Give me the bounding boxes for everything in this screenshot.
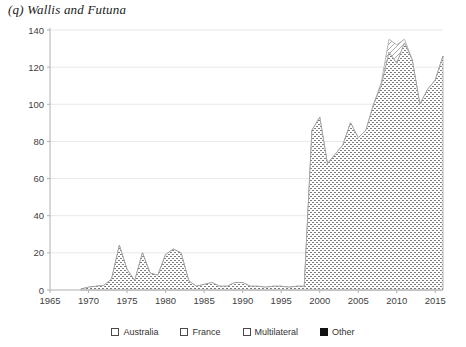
x-tick-label: 2005 [348, 295, 369, 306]
legend-label-france: France [192, 328, 220, 337]
y-tick-label: 40 [33, 210, 44, 221]
x-tick-label: 2000 [309, 295, 330, 306]
y-tick-label: 0 [39, 285, 44, 296]
y-tick-label: 20 [33, 247, 44, 258]
chart-figure: (q) Wallis and Futuna [0, 0, 466, 347]
legend-item-france[interactable]: France [180, 328, 220, 337]
x-tick-label: 1975 [116, 295, 137, 306]
legend-item-other[interactable]: Other [320, 328, 355, 337]
y-tick-label: 80 [33, 136, 44, 147]
y-tick-label: 60 [33, 173, 44, 184]
legend-item-multilateral[interactable]: Multilateral [243, 328, 299, 337]
y-tick-label: 100 [28, 99, 44, 110]
x-tick-label: 1985 [194, 295, 215, 306]
plot-svg: 0204060801001201401965197019751980198519… [0, 18, 466, 308]
chart-title: (q) Wallis and Futuna [8, 2, 126, 18]
x-tick-label: 1990 [232, 295, 253, 306]
y-tick-label: 140 [28, 25, 44, 36]
legend-label-other: Other [332, 328, 355, 337]
x-tick-label: 1965 [39, 295, 60, 306]
x-tick-label: 1995 [271, 295, 292, 306]
x-tick-label: 1980 [155, 295, 176, 306]
y-tick-label: 120 [28, 62, 44, 73]
x-tick-label: 2010 [386, 295, 407, 306]
legend-label-multilateral: Multilateral [255, 328, 299, 337]
legend-swatch-france-icon [180, 328, 188, 336]
legend-swatch-australia-icon [111, 328, 119, 336]
legend-swatch-other-icon [320, 328, 328, 336]
x-tick-label: 1970 [78, 295, 99, 306]
x-tick-label: 2015 [425, 295, 446, 306]
legend-item-australia[interactable]: Australia [111, 328, 158, 337]
chart-legend: Australia France Multilateral Other [0, 322, 466, 342]
legend-label-australia: Australia [123, 328, 158, 337]
plot-area: 0204060801001201401965197019751980198519… [0, 18, 466, 308]
legend-swatch-multilateral-icon [243, 328, 251, 336]
